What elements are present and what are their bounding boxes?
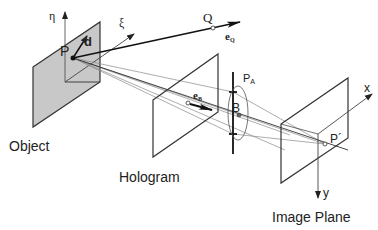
point-Q (211, 26, 215, 30)
xi-label: ξ (119, 16, 125, 30)
image-point (323, 142, 327, 146)
image-plane-label: Image Plane (272, 209, 351, 225)
x-axis (318, 94, 372, 134)
P-label: P (60, 43, 69, 59)
holography-diagram: η ξ P d Q eQ eB PA B P´ x y Object Holog… (0, 0, 378, 230)
Q-label: Q (203, 10, 213, 25)
d-label: d (84, 34, 92, 49)
eB-label: eB (193, 89, 202, 102)
object-label: Object (9, 138, 50, 154)
B-label: B (232, 101, 240, 115)
P-prime-label: P´ (330, 132, 342, 146)
eta-label: η (49, 9, 55, 23)
image-plane (281, 78, 372, 198)
PA-label: PA (243, 72, 255, 85)
optical-axis (73, 58, 348, 150)
x-label: x (364, 81, 370, 95)
hologram-label: Hologram (119, 169, 180, 185)
eQ-label: eQ (225, 30, 235, 43)
light-rays (73, 58, 325, 150)
y-label: y (323, 186, 329, 200)
hologram-plane (153, 54, 218, 157)
